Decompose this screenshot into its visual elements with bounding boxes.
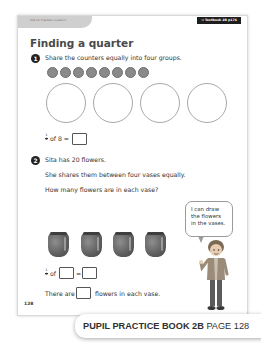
vase[interactable]	[113, 232, 134, 257]
book-page-banner: PUPIL PRACTICE BOOK 2B PAGE 128	[75, 314, 261, 338]
counter	[73, 67, 84, 78]
equation-text: of 8 =	[50, 135, 69, 142]
group-circle-4[interactable]	[187, 83, 227, 123]
speech-bubble: I can draw the flowers in the vases.	[185, 201, 233, 237]
workbook-page: Unit 14: Fractions, Lesson 3 → Textbook …	[17, 15, 248, 316]
vase[interactable]	[48, 232, 69, 257]
counter	[86, 67, 97, 78]
counter	[125, 67, 136, 78]
fraction-denominator: 4	[45, 273, 47, 277]
question-1-number: 1	[31, 54, 40, 63]
question-1-instruction: Share the counters equally into four gro…	[45, 54, 182, 61]
answer-box-flowers-per-vase[interactable]	[76, 287, 91, 299]
of-text: of	[50, 270, 56, 277]
answer-box-total[interactable]	[59, 267, 74, 279]
vase[interactable]	[81, 232, 102, 257]
counter	[138, 67, 149, 78]
speech-line-1: I can draw	[191, 206, 229, 213]
page-number: 128	[24, 301, 33, 306]
boy-character-icon	[198, 238, 234, 316]
answer-box-quarter[interactable]	[82, 267, 97, 279]
answer-sentence-start: There are	[45, 290, 75, 297]
counter	[112, 67, 123, 78]
group-circle-3[interactable]	[140, 83, 180, 123]
fraction-one-quarter-q2: 1 4	[45, 269, 48, 277]
question-2-line-1: Sita has 20 flowers.	[45, 156, 106, 163]
banner-page: PAGE 128	[206, 321, 249, 331]
counter	[60, 67, 71, 78]
book-title: PUPIL PRACTICE BOOK 2B	[83, 321, 204, 331]
question-2-line-2: She shares them between four vases equal…	[45, 171, 186, 178]
fraction-denominator: 4	[45, 138, 47, 142]
equals-sign: =	[76, 270, 81, 277]
fraction-one-quarter: 1 4	[45, 134, 48, 142]
speech-line-3: in the vases.	[191, 220, 229, 227]
speech-line-2: the flowers	[191, 213, 229, 220]
counter	[47, 67, 58, 78]
vase[interactable]	[145, 232, 166, 257]
group-circle-2[interactable]	[93, 83, 133, 123]
counter	[99, 67, 110, 78]
answer-sentence-end: flowers in each vase.	[95, 290, 160, 297]
textbook-reference-badge: → Textbook 2B p176	[197, 17, 241, 24]
answer-box-q1[interactable]	[72, 133, 87, 145]
page-title: Finding a quarter	[30, 37, 133, 49]
unit-tab-label: Unit 14: Fractions, Lesson 3	[30, 19, 66, 22]
unit-tab: Unit 14: Fractions, Lesson 3	[18, 16, 92, 28]
question-2-line-3: How many flowers are in each vase?	[45, 186, 158, 193]
group-circle-1[interactable]	[46, 83, 86, 123]
question-2-number: 2	[31, 156, 40, 165]
